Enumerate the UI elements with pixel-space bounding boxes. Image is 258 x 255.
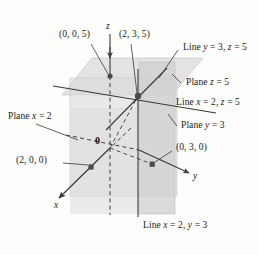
line-x2-y3-label: Line x = 2, y = 3 <box>143 221 207 231</box>
x-axis-label: x <box>54 201 58 211</box>
point-2-3-5-label: (2, 3, 5) <box>119 30 150 40</box>
point-0-0-5-dot <box>107 73 112 78</box>
plane-z5-text-a: Plane <box>186 77 210 87</box>
line-x2-z5-text-c: = 5 <box>225 97 240 107</box>
z-axis-label: z <box>106 22 110 32</box>
plane-y3-text-a: Plane <box>181 120 205 130</box>
point-2-3-5-dot <box>135 93 141 99</box>
point-0-3-0-dot <box>150 162 155 167</box>
plane-y3-label: Plane y = 3 <box>181 121 225 131</box>
plane-y3-surface <box>139 62 175 214</box>
line-y3-z5-text-c: = 5 <box>232 42 247 52</box>
line-x2-y3-text-b: = 2, <box>168 220 188 230</box>
point-2-0-0-dot <box>88 164 93 169</box>
coordinate-planes-figure: (0, 0, 5) (2, 3, 5) Line y = 3, z = 5 Pl… <box>0 0 258 255</box>
origin-label: 0 <box>95 136 100 146</box>
line-y3-z5-label: Line y = 3, z = 5 <box>183 43 247 53</box>
plane-x2-text-b: = 2 <box>36 111 51 121</box>
line-x2-z5-label: Line x = 2, z = 5 <box>176 98 240 108</box>
plane-x2-label: Plane x = 2 <box>8 112 52 122</box>
plane-x2-front-panel <box>70 108 139 214</box>
plane-x2-text-a: Plane <box>8 111 32 121</box>
line-x2-z5-text-a: Line <box>176 97 196 107</box>
plane-z5-text-b: = 5 <box>214 77 229 87</box>
y-axis-label: y <box>193 172 197 182</box>
plane-z5-label: Plane z = 5 <box>186 78 229 88</box>
point-0-3-0-label: (0, 3, 0) <box>176 143 207 153</box>
line-y3-z5-text-a: Line <box>183 42 203 52</box>
line-x2-z5-text-b: = 2, <box>201 97 221 107</box>
line-x2-y3-text-c: = 3 <box>192 220 207 230</box>
point-0-0-5-label: (0, 0, 5) <box>59 30 90 40</box>
plane-y3-text-b: = 3 <box>209 120 224 130</box>
line-x2-y3-text-a: Line <box>143 220 163 230</box>
line-y3-z5-text-b: = 3, <box>208 42 228 52</box>
point-2-0-0-label: (2, 0, 0) <box>16 156 47 166</box>
